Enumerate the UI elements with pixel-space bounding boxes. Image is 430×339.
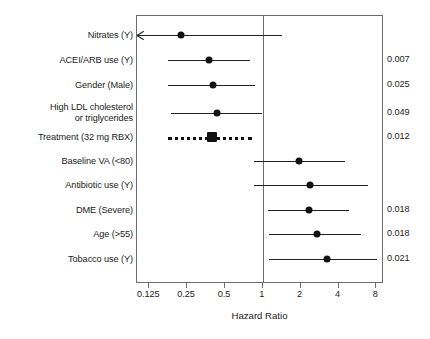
pvalue-text: 0.021	[387, 253, 430, 263]
row-label: ACEI/ARB use (Y)	[1, 55, 133, 66]
x-axis-tick	[148, 283, 149, 288]
pvalue-text: 0.012	[387, 131, 430, 141]
pvalue-text: 0.049	[387, 107, 430, 117]
row-label: Tobacco use (Y)	[1, 254, 133, 265]
point-estimate-marker	[205, 57, 212, 64]
x-axis-tick-label: 0.25	[177, 289, 194, 299]
x-axis-title: Hazard Ratio	[136, 310, 383, 321]
x-axis-tick-label: 1	[259, 289, 264, 299]
point-estimate-marker	[295, 158, 302, 165]
row-label: Baseline VA (<80)	[1, 156, 133, 167]
row-label: DME (Severe)	[1, 205, 133, 216]
row-label: Nitrates (Y)	[1, 30, 133, 41]
row-label: High LDL cholesterol or triglycerides	[1, 102, 133, 124]
pvalue-text: 0.018	[387, 204, 430, 214]
x-axis-tick-label: 0.5	[218, 289, 230, 299]
pvalue-column: 0.0070.0250.0490.0120.0180.0180.021	[387, 0, 430, 339]
pvalue-text: 0.007	[387, 54, 430, 64]
reference-line-at-1	[263, 16, 264, 282]
row-label: Treatment (32 mg RBX)	[1, 132, 133, 143]
point-estimate-marker	[178, 32, 185, 39]
x-axis-tick-label: 4	[335, 289, 340, 299]
x-axis-tick	[186, 283, 187, 288]
x-axis-tick-label: 0.125	[137, 289, 160, 299]
point-estimate-marker	[213, 110, 220, 117]
pvalue-text: 0.018	[387, 228, 430, 238]
x-axis-tick	[262, 283, 263, 288]
plot-area	[136, 15, 383, 283]
x-axis-tick-label: 8	[373, 289, 378, 299]
pvalue-text: 0.025	[387, 79, 430, 89]
row-label: Age (>55)	[1, 229, 133, 240]
point-estimate-marker	[306, 182, 313, 189]
row-label: Antibiotic use (Y)	[1, 180, 133, 191]
point-estimate-marker	[305, 207, 312, 214]
x-axis-tick	[224, 283, 225, 288]
point-estimate-marker	[207, 132, 217, 142]
point-estimate-marker	[210, 82, 217, 89]
forest-plot-figure: Nitrates (Y)ACEI/ARB use (Y)Gender (Male…	[0, 0, 430, 339]
confidence-interval-line	[137, 35, 282, 36]
x-axis-tick	[300, 283, 301, 288]
x-axis-tick-label: 2	[297, 289, 302, 299]
row-label-column: Nitrates (Y)ACEI/ARB use (Y)Gender (Male…	[0, 0, 133, 339]
point-estimate-marker	[314, 231, 321, 238]
point-estimate-marker	[323, 256, 330, 263]
row-label: Gender (Male)	[1, 80, 133, 91]
x-axis-tick	[375, 283, 376, 288]
x-axis-tick	[338, 283, 339, 288]
